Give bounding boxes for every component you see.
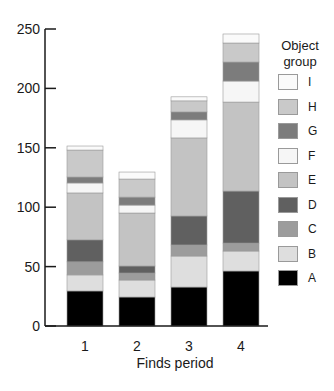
legend-label: E — [308, 173, 316, 187]
x-axis-title: Finds period — [100, 356, 250, 370]
bar-segment-3-h — [171, 101, 207, 112]
legend-swatch — [278, 74, 298, 90]
bar-segment-1-d — [67, 240, 103, 262]
bar-segment-3-d — [171, 216, 207, 245]
y-tick-label: 0 — [0, 319, 40, 333]
legend-label: F — [308, 149, 315, 163]
legend-label: D — [308, 198, 317, 212]
legend-title-line2: group — [270, 54, 330, 70]
bar-segment-2-a — [119, 297, 155, 326]
bar-segment-2-e — [119, 213, 155, 266]
bar-segment-4-d — [223, 191, 259, 243]
bar-segment-1-h — [67, 150, 103, 177]
legend-swatch — [278, 246, 298, 262]
legend-item-d: D — [278, 197, 334, 215]
bar-segment-3-f — [171, 120, 207, 138]
bar-segment-4-f — [223, 81, 259, 102]
bar-segment-4-e — [223, 102, 259, 191]
legend-swatch — [278, 172, 298, 188]
bar-segment-3-e — [171, 138, 207, 216]
legend-item-g: G — [278, 123, 334, 141]
bar-segment-4-h — [223, 43, 259, 62]
legend-item-a: A — [278, 270, 334, 288]
x-tick-label: 1 — [70, 339, 100, 353]
bar-segment-4-g — [223, 62, 259, 81]
bar-segment-4-b — [223, 251, 259, 271]
bar-segment-3-g — [171, 112, 207, 120]
x-tick-label: 4 — [226, 339, 256, 353]
bar-segment-3-i — [171, 97, 207, 101]
bar-segment-2-f — [119, 205, 155, 213]
bar-segment-2-g — [119, 197, 155, 205]
legend-item-b: B — [278, 246, 334, 264]
legend-swatch — [278, 99, 298, 115]
bar-segment-1-f — [67, 183, 103, 193]
y-tick-label: 50 — [0, 260, 40, 274]
legend-swatch — [278, 123, 298, 139]
stacked-bar-chart: 050100150200250 1234 Finds period Object… — [0, 0, 334, 391]
x-tick-label: 3 — [174, 339, 204, 353]
bar-segment-1-g — [67, 177, 103, 183]
bar-segment-1-c — [67, 262, 103, 275]
legend-item-i: I — [278, 74, 334, 92]
bar-segment-3-a — [171, 287, 207, 326]
legend-title-line1: Object — [270, 38, 330, 54]
bar-segment-3-c — [171, 245, 207, 256]
bar-segment-1-e — [67, 193, 103, 240]
legend-label: C — [308, 222, 317, 236]
bar-segment-2-d — [119, 266, 155, 273]
bar-segment-2-c — [119, 273, 155, 280]
bar-segment-2-b — [119, 280, 155, 297]
y-tick-label: 200 — [0, 81, 40, 95]
legend-swatch — [278, 270, 298, 286]
x-tick-label: 2 — [122, 339, 152, 353]
legend-item-f: F — [278, 148, 334, 166]
bar-segment-1-b — [67, 275, 103, 291]
bar-segment-4-c — [223, 243, 259, 251]
y-tick-label: 100 — [0, 200, 40, 214]
bar-segment-2-i — [119, 172, 155, 179]
bar-segment-1-i — [67, 146, 103, 150]
legend-item-e: E — [278, 172, 334, 190]
legend-swatch — [278, 221, 298, 237]
legend-label: B — [308, 247, 316, 261]
bar-segment-1-a — [67, 291, 103, 326]
bar-segment-4-i — [223, 34, 259, 43]
legend-label: H — [308, 100, 317, 114]
legend-title: Object group — [270, 38, 330, 70]
legend-label: A — [308, 271, 316, 285]
legend-swatch — [278, 197, 298, 213]
bar-segment-4-a — [223, 271, 259, 326]
legend-item-h: H — [278, 99, 334, 117]
y-tick-label: 150 — [0, 141, 40, 155]
bar-segment-2-h — [119, 179, 155, 197]
legend-swatch — [278, 148, 298, 164]
legend-item-c: C — [278, 221, 334, 239]
bar-segment-3-b — [171, 256, 207, 287]
legend-label: I — [308, 75, 311, 89]
legend-label: G — [308, 124, 317, 138]
y-tick-label: 250 — [0, 22, 40, 36]
